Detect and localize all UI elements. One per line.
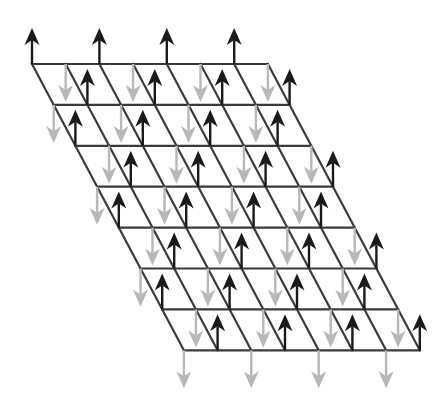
spin-up-arrow-icon	[222, 273, 237, 309]
spin-up-arrow-icon	[227, 28, 242, 64]
spin-up-arrow-icon	[68, 110, 83, 146]
spin-up-arrow-icon	[155, 273, 170, 309]
spin-down-arrow-icon	[379, 350, 394, 388]
spin-down-arrow-icon	[280, 228, 295, 266]
spin-down-arrow-icon	[244, 350, 259, 388]
spin-down-arrow-icon	[188, 309, 203, 347]
spin-down-arrow-icon	[90, 187, 105, 225]
spin-down-arrow-icon	[157, 187, 172, 225]
spin-up-arrow-icon	[234, 233, 249, 269]
spin-up-arrow-icon	[278, 314, 293, 350]
spin-down-arrow-icon	[133, 269, 148, 307]
spin-up-arrow-icon	[210, 314, 225, 350]
spin-down-arrow-icon	[102, 146, 117, 184]
spin-down-arrow-icon	[391, 309, 406, 347]
spin-up-arrow-icon	[191, 151, 206, 187]
spin-down-arrow-icon	[335, 269, 350, 307]
spin-down-arrow-icon	[114, 105, 129, 143]
spin-up-arrow-icon	[215, 69, 230, 105]
spin-lattice-diagram	[0, 0, 441, 410]
spin-up-arrow-icon	[290, 273, 305, 309]
lattice-column-line	[66, 64, 218, 350]
spin-down-arrow-icon	[256, 309, 271, 347]
spin-up-arrow-icon	[282, 69, 297, 105]
spin-down-arrow-icon	[212, 228, 227, 266]
spin-up-arrow-icon	[246, 192, 261, 228]
spin-up-arrow-icon	[326, 151, 341, 187]
spin-up-arrow-icon	[258, 151, 273, 187]
spin-down-arrow-icon	[224, 187, 239, 225]
spin-down-arrow-icon	[304, 146, 319, 184]
spin-down-arrow-icon	[200, 269, 215, 307]
spin-up-arrow-icon	[167, 233, 182, 269]
spin-down-arrow-icon	[347, 228, 362, 266]
spin-up-arrow-icon	[270, 110, 285, 146]
spin-up-arrow-icon	[159, 28, 174, 64]
spin-down-arrow-icon	[145, 228, 160, 266]
lattice-column-line	[133, 64, 285, 350]
spin-down-arrow-icon	[292, 187, 307, 225]
spin-down-arrow-icon	[311, 350, 326, 388]
spin-up-arrow-icon	[111, 192, 126, 228]
spin-up-arrow-icon	[314, 192, 329, 228]
spin-down-arrow-icon	[248, 105, 263, 143]
spin-down-arrow-icon	[126, 64, 141, 102]
spin-up-arrow-icon	[25, 28, 40, 64]
lattice-column-line	[268, 64, 420, 350]
spin-up-arrow-icon	[80, 69, 95, 105]
spin-up-arrow-icon	[123, 151, 138, 187]
spin-up-arrow-icon	[369, 233, 384, 269]
lattice-grid	[32, 64, 420, 350]
spin-down-arrow-icon	[268, 269, 283, 307]
spin-down-arrow-icon	[176, 350, 191, 388]
spin-up-arrow-icon	[135, 110, 150, 146]
spin-down-arrow-icon	[323, 309, 338, 347]
spin-down-arrow-icon	[181, 105, 196, 143]
spin-down-arrow-icon	[193, 64, 208, 102]
spin-up-arrow-icon	[179, 192, 194, 228]
spin-up-arrow-icon	[147, 69, 162, 105]
spin-up-arrow-icon	[92, 28, 107, 64]
lattice-column-line	[201, 64, 353, 350]
spin-down-arrow-icon	[236, 146, 251, 184]
spin-up-arrow-icon	[412, 314, 427, 350]
spin-down-arrow-icon	[169, 146, 184, 184]
spin-up-arrow-icon	[357, 273, 372, 309]
spin-up-arrow-icon	[203, 110, 218, 146]
spin-down-arrow-icon	[46, 105, 61, 143]
spin-down-arrow-icon	[260, 64, 275, 102]
spin-up-arrow-icon	[345, 314, 360, 350]
spin-down-arrow-icon	[58, 64, 73, 102]
spin-up-arrow-icon	[302, 233, 317, 269]
